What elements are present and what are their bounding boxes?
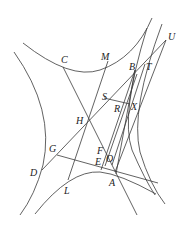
label-T: T (146, 61, 153, 72)
label-E: E (94, 156, 101, 167)
geometry-figure: C M B T U S R X H G D F E O A L (0, 0, 187, 231)
label-C: C (61, 54, 68, 65)
line-C-A (63, 67, 137, 215)
label-O: O (106, 153, 113, 164)
label-M: M (100, 51, 110, 62)
label-S: S (102, 91, 107, 102)
label-H: H (75, 115, 84, 126)
line-M-L (68, 61, 108, 180)
label-A: A (108, 177, 116, 188)
label-G: G (49, 143, 56, 154)
label-L: L (63, 185, 70, 196)
right-hyperbola-branch (138, 24, 165, 204)
label-B: B (129, 61, 135, 72)
line-B-A (116, 70, 135, 174)
diagram-canvas: C M B T U S R X H G D F E O A L (0, 0, 187, 231)
left-hyperbola-branch (14, 52, 46, 215)
bottom-hyperbola-branch (35, 172, 156, 214)
label-U: U (168, 31, 176, 42)
label-F: F (96, 145, 104, 156)
label-X: X (130, 101, 138, 112)
label-R: R (113, 103, 120, 114)
label-D: D (29, 167, 38, 178)
